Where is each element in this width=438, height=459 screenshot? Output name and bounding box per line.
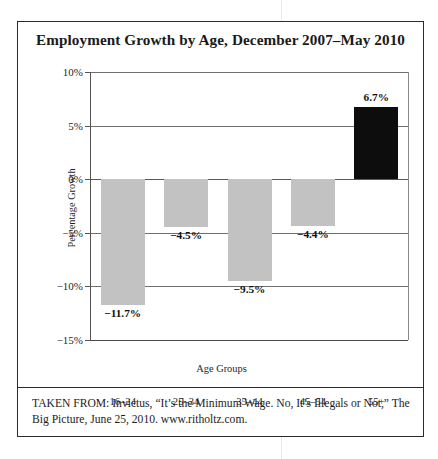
y-axis-tick <box>85 126 91 127</box>
y-axis-tick <box>85 286 91 287</box>
bar <box>228 179 272 281</box>
y-axis-tick <box>85 233 91 234</box>
bar <box>164 179 208 227</box>
y-axis-tick <box>85 72 91 73</box>
y-axis-tick-label: −5% <box>62 227 83 239</box>
bar-value-label: −4.5% <box>141 229 231 241</box>
bar <box>291 179 335 226</box>
y-axis-tick-label: 10% <box>63 66 83 78</box>
bar-chart: Percentage Growth 10%5%0%−5%−10%−15%−11.… <box>18 22 425 389</box>
bar-value-label: −9.5% <box>205 283 295 295</box>
gridline <box>91 72 408 73</box>
x-axis-title: Age Groups <box>18 363 425 374</box>
bar <box>101 179 145 304</box>
bar-value-label: −11.7% <box>78 307 168 319</box>
figure-frame: Employment Growth by Age, December 2007–… <box>17 21 424 437</box>
y-axis-tick-label: −15% <box>57 334 83 346</box>
caption-divider <box>18 387 423 388</box>
source-caption: TAKEN FROM: Invictus, “It’s the Minimum … <box>32 396 410 429</box>
y-axis-tick-label: 0% <box>68 173 83 185</box>
gridline <box>91 340 408 341</box>
bar <box>354 107 398 179</box>
y-axis-tick <box>85 179 91 180</box>
y-axis-tick-label: 5% <box>68 120 83 132</box>
y-axis-tick <box>85 340 91 341</box>
plot-area: 10%5%0%−5%−10%−15%−11.7%16–24−4.5%25–34−… <box>90 72 409 340</box>
y-axis-tick-label: −10% <box>57 280 83 292</box>
bar-value-label: 6.7% <box>331 91 421 103</box>
bar-value-label: −4.4% <box>268 228 358 240</box>
